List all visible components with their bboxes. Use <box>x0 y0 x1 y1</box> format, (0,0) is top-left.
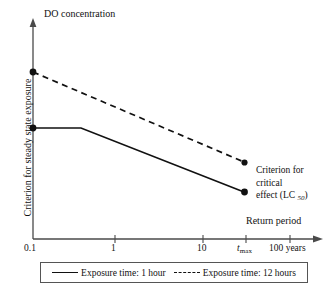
x-axis-title: Return period <box>246 215 301 226</box>
legend-entry-12-hours: Exposure time: 12 hours <box>174 268 296 278</box>
tmax-subscript: max <box>240 247 252 255</box>
annotation-line-1: Criterion for <box>256 165 304 175</box>
legend-swatch-solid <box>52 272 78 273</box>
legend-swatch-dashed <box>174 272 200 273</box>
x-tick-label-100-years: 100 years <box>269 243 306 253</box>
legend-label-1-hour: Exposure time: 1 hour <box>81 268 166 278</box>
figure-container: DO concentration Criterion for steady st… <box>0 0 336 292</box>
annotation-line-2: critical <box>256 178 282 188</box>
series-line-1-hour <box>33 128 244 192</box>
annotation-line-3-suffix: ) <box>305 190 308 200</box>
y-axis-title: Criterion for steady state exposure <box>22 68 33 228</box>
x-axis-arrowhead <box>313 235 323 242</box>
y-axis-arrowhead <box>30 18 37 27</box>
annotation-criterion-critical-effect: Criterion forcriticaleffect (LC 50) <box>256 164 334 205</box>
legend-label-12-hours: Exposure time: 12 hours <box>203 268 296 278</box>
x-tick-label-1: 1 <box>111 243 116 253</box>
series-line-12-hours <box>33 72 244 162</box>
x-tick-label-10: 10 <box>197 243 207 253</box>
annotation-line-3-prefix: effect (LC <box>256 190 298 200</box>
annotation-line-3-subscript: 50 <box>298 194 305 202</box>
x-tick-label-0.1: 0.1 <box>24 243 36 253</box>
legend-entry-1-hour: Exposure time: 1 hour <box>52 268 166 278</box>
x-tick-label-tmax: tmax <box>237 243 252 255</box>
marker-12h-end <box>241 159 247 165</box>
marker-1h-end <box>241 189 248 196</box>
chart-legend: Exposure time: 1 hour Exposure time: 12 … <box>40 262 308 283</box>
chart-title: DO concentration <box>44 8 115 19</box>
